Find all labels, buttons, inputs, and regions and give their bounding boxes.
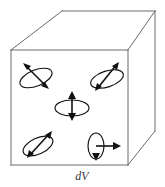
- magnetic-dipoles-in-volume-element-figure: dV: [0, 0, 165, 187]
- figure-canvas: dV: [0, 0, 165, 187]
- volume-element-caption: dV: [75, 169, 90, 183]
- volume-element-cube: [11, 11, 155, 165]
